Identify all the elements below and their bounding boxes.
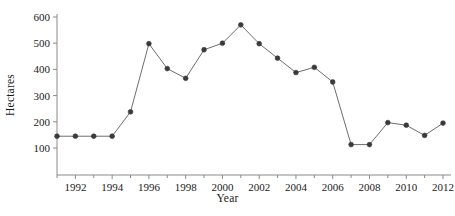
data-point-marker xyxy=(422,133,427,138)
data-point-marker xyxy=(312,65,317,70)
data-point-marker xyxy=(91,134,96,139)
data-point-marker xyxy=(165,66,170,71)
line-chart-plot: 1002003004005006001992199419961998200020… xyxy=(0,0,455,216)
data-point-marker xyxy=(73,134,78,139)
y-tick-label: 500 xyxy=(34,37,51,49)
data-point-marker xyxy=(202,47,207,52)
y-tick-label: 100 xyxy=(34,142,51,154)
data-point-marker xyxy=(55,134,60,139)
y-axis-title: Hectares xyxy=(4,0,16,50)
data-point-marker xyxy=(147,41,152,46)
x-axis-title: Year xyxy=(0,192,455,204)
data-point-marker xyxy=(367,142,372,147)
data-point-marker xyxy=(385,120,390,125)
data-point-marker xyxy=(330,80,335,85)
y-tick-label: 400 xyxy=(34,63,51,75)
chart-container: 1002003004005006001992199419961998200020… xyxy=(0,0,455,216)
data-point-marker xyxy=(441,121,446,126)
data-point-marker xyxy=(110,134,115,139)
data-point-marker xyxy=(257,41,262,46)
data-point-marker xyxy=(349,142,354,147)
data-series-line xyxy=(57,25,443,145)
data-point-marker xyxy=(294,70,299,75)
data-point-marker xyxy=(128,109,133,114)
data-point-marker xyxy=(238,22,243,27)
y-tick-label: 300 xyxy=(34,90,51,102)
y-tick-label: 600 xyxy=(34,11,51,23)
data-point-marker xyxy=(404,123,409,128)
data-point-marker xyxy=(220,41,225,46)
data-point-marker xyxy=(275,56,280,61)
data-point-marker xyxy=(183,76,188,81)
y-tick-label: 200 xyxy=(34,116,51,128)
